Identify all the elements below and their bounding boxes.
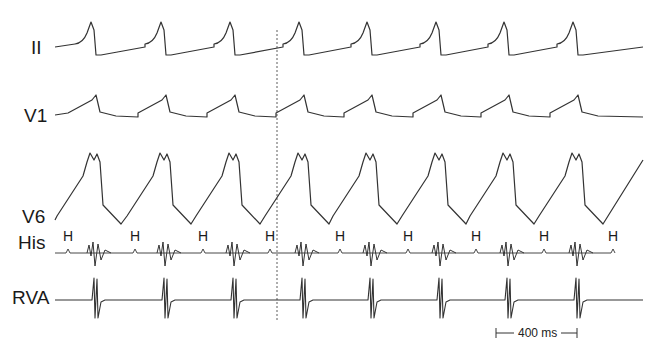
his-marker-h: H [265, 229, 275, 243]
trace-v6 [55, 153, 643, 224]
his-marker-h: H [63, 229, 73, 243]
his-marker-h: H [471, 229, 481, 243]
trace-his-complex [226, 242, 250, 266]
his-marker-h: H [539, 229, 549, 243]
trace-his-complex [432, 242, 456, 266]
trace-his-complex [295, 242, 319, 266]
trace-ii [55, 22, 643, 55]
trace-his-complex [500, 242, 524, 266]
trace-his-baseline [55, 249, 615, 253]
trace-his-complex [569, 242, 593, 266]
his-marker-h: H [198, 229, 208, 243]
trace-his-complex [87, 242, 111, 266]
ecg-traces [0, 0, 655, 352]
his-marker-h: H [335, 229, 345, 243]
his-marker-h: H [608, 229, 618, 243]
trace-his-complex [363, 242, 387, 266]
scale-bar-label: 400 ms [518, 326, 557, 340]
trace-v1 [55, 95, 643, 117]
trace-his-complex [157, 242, 181, 266]
his-marker-h: H [130, 229, 140, 243]
his-marker-h: H [403, 229, 413, 243]
trace-rva [55, 278, 643, 318]
